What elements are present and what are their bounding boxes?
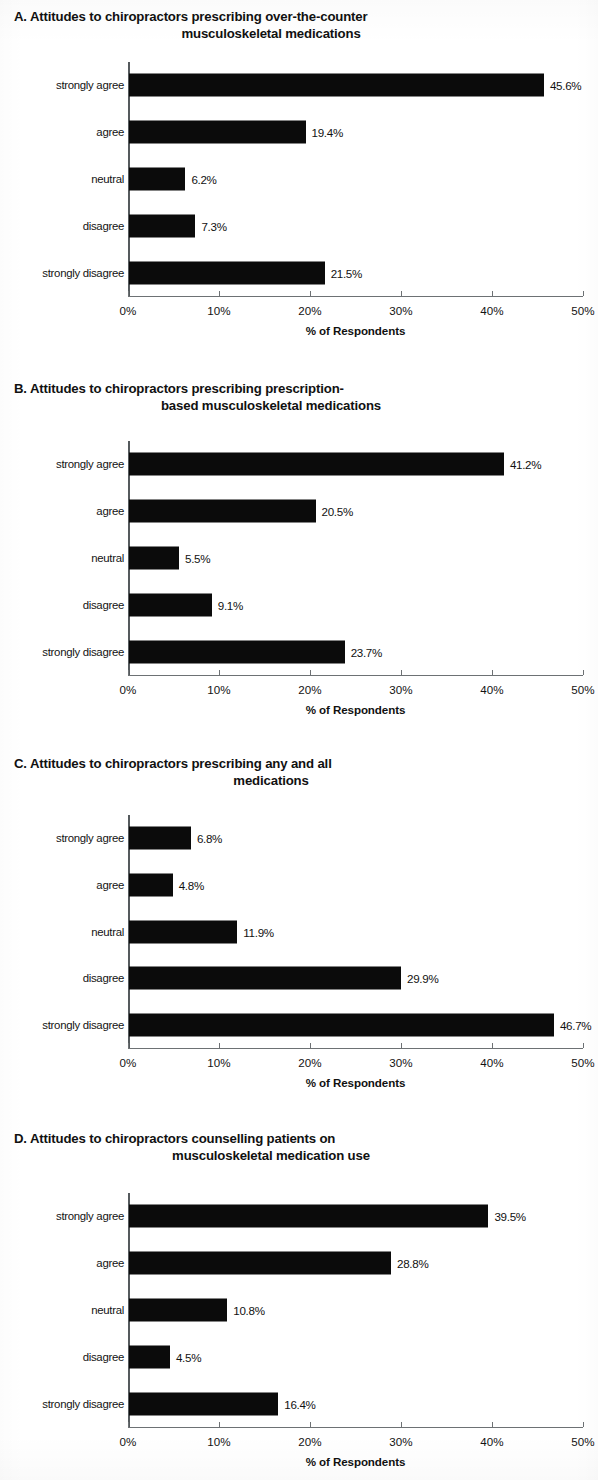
category-label: strongly agree [0, 832, 124, 845]
x-axis-tick [401, 291, 402, 296]
bar-value-label: 16.4% [284, 1397, 315, 1410]
chart-title-d: D. Attitudes to chiropractors counsellin… [0, 1130, 598, 1164]
plot-area-b: 0%10%20%30%40%50%% of Respondentsstrongl… [0, 441, 598, 715]
chart-title-line-2: musculoskeletal medications [0, 25, 598, 42]
chart-title-line-2: based musculoskeletal medications [0, 397, 598, 414]
x-axis-tick [310, 1043, 311, 1048]
x-axis-tick [492, 291, 493, 296]
bar-value-label: 46.7% [560, 1018, 591, 1031]
x-axis-tick-label: 50% [555, 683, 598, 696]
chart-title-line-2: medications [0, 772, 598, 789]
x-axis-title: % of Respondents [128, 703, 583, 716]
x-axis-line [128, 296, 583, 297]
category-label: neutral [0, 552, 124, 565]
x-axis-tick [219, 291, 220, 296]
x-axis-tick-label: 50% [555, 1435, 598, 1448]
chart-panel-b: B. Attitudes to chiropractors prescribin… [0, 380, 598, 414]
x-axis-tick-label: 40% [464, 1056, 520, 1069]
bar [129, 214, 195, 237]
x-axis-title: % of Respondents [128, 1076, 583, 1089]
category-label: disagree [0, 972, 124, 985]
chart-title-line-1: C. Attitudes to chiropractors prescribin… [0, 755, 598, 772]
bar-value-label: 23.7% [351, 645, 382, 658]
bar [129, 121, 306, 144]
bar [129, 168, 185, 191]
x-axis-tick [310, 670, 311, 675]
category-label: disagree [0, 1350, 124, 1363]
bar-value-label: 5.5% [185, 552, 210, 565]
x-axis-tick-label: 0% [100, 1435, 156, 1448]
x-axis-tick [401, 1043, 402, 1048]
bar-value-label: 4.8% [179, 878, 204, 891]
bar-value-label: 28.8% [397, 1257, 428, 1270]
x-axis-tick [583, 1043, 584, 1048]
category-label: neutral [0, 1304, 124, 1317]
x-axis-tick-label: 20% [282, 304, 338, 317]
category-label: agree [0, 1257, 124, 1270]
bar-value-label: 6.8% [197, 832, 222, 845]
x-axis-tick [492, 1422, 493, 1427]
category-label: agree [0, 878, 124, 891]
x-axis-tick-label: 20% [282, 683, 338, 696]
x-axis-tick-label: 20% [282, 1435, 338, 1448]
plot-area-d: 0%10%20%30%40%50%% of Respondentsstrongl… [0, 1193, 598, 1467]
chart-panel-a: A. Attitudes to chiropractors prescribin… [0, 8, 598, 42]
bar-value-label: 45.6% [550, 79, 581, 92]
bar-value-label: 41.2% [510, 458, 541, 471]
x-axis-line [128, 675, 583, 676]
x-axis-tick [583, 670, 584, 675]
category-label: strongly agree [0, 79, 124, 92]
x-axis-tick-label: 0% [100, 1056, 156, 1069]
chart-title-line-1: D. Attitudes to chiropractors counsellin… [0, 1130, 598, 1147]
x-axis-tick-label: 40% [464, 683, 520, 696]
chart-title-line-2: musculoskeletal medication use [0, 1147, 598, 1164]
x-axis-tick [128, 670, 129, 675]
bar [129, 640, 345, 663]
bar-value-label: 6.2% [191, 173, 216, 186]
bar-value-label: 29.9% [407, 972, 438, 985]
x-axis-tick [219, 1043, 220, 1048]
x-axis-tick-label: 30% [373, 304, 429, 317]
chart-title-line-1: B. Attitudes to chiropractors prescribin… [0, 380, 598, 397]
x-axis-tick [128, 1422, 129, 1427]
x-axis-line [128, 1048, 583, 1049]
chart-panel-d: D. Attitudes to chiropractors counsellin… [0, 1130, 598, 1164]
x-axis-tick [401, 670, 402, 675]
bar [129, 547, 179, 570]
bar-value-label: 19.4% [312, 126, 343, 139]
x-axis-tick [310, 1422, 311, 1427]
bar [129, 453, 504, 476]
bar [129, 1252, 391, 1275]
x-axis-tick-label: 50% [555, 1056, 598, 1069]
x-axis-tick-label: 10% [191, 1056, 247, 1069]
category-label: strongly agree [0, 458, 124, 471]
x-axis-tick [583, 291, 584, 296]
x-axis-title: % of Respondents [128, 324, 583, 337]
x-axis-title: % of Respondents [128, 1455, 583, 1468]
category-label: disagree [0, 219, 124, 232]
x-axis-tick-label: 20% [282, 1056, 338, 1069]
x-axis-tick-label: 0% [100, 683, 156, 696]
chart-title-line-1: A. Attitudes to chiropractors prescribin… [0, 8, 598, 25]
chart-title-c: C. Attitudes to chiropractors prescribin… [0, 755, 598, 789]
x-axis-tick-label: 40% [464, 1435, 520, 1448]
x-axis-tick [128, 291, 129, 296]
x-axis-tick-label: 10% [191, 304, 247, 317]
bar [129, 1205, 488, 1228]
x-axis-tick [310, 291, 311, 296]
plot-area-a: 0%10%20%30%40%50%% of Respondentsstrongl… [0, 62, 598, 336]
bar [129, 827, 191, 850]
x-axis-tick [219, 670, 220, 675]
x-axis-tick-label: 30% [373, 683, 429, 696]
category-label: neutral [0, 173, 124, 186]
bar [129, 967, 401, 990]
category-label: strongly disagree [0, 1018, 124, 1031]
chart-title-a: A. Attitudes to chiropractors prescribin… [0, 8, 598, 42]
bar-value-label: 9.1% [218, 598, 243, 611]
bar [129, 1392, 278, 1415]
bar [129, 1299, 227, 1322]
x-axis-tick-label: 40% [464, 304, 520, 317]
bar [129, 1013, 554, 1036]
bar [129, 74, 544, 97]
bar [129, 873, 173, 896]
